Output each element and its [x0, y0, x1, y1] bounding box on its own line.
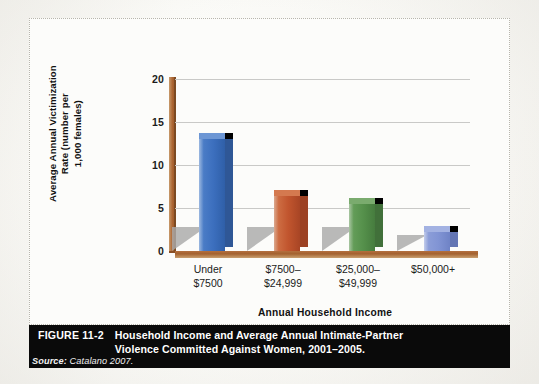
- bar-shadow-4: [397, 235, 427, 251]
- figure-source: Source: Catalano 2007.: [32, 356, 133, 366]
- y-axis-title: Average Annual Victimization Rate (numbe…: [47, 45, 84, 223]
- source-label: Source:: [32, 356, 67, 366]
- x-axis-floor: [175, 251, 478, 258]
- source-value: Catalano 2007.: [70, 356, 134, 366]
- figure-number: FIGURE 11-2: [38, 329, 104, 341]
- gridline-15: [175, 122, 470, 123]
- chart-panel: Average Annual Victimization Rate (numbe…: [29, 18, 510, 325]
- caption-line-1: Household Income and Average Annual Inti…: [115, 329, 403, 341]
- x-label-2-line2: $24,999: [264, 277, 302, 289]
- y-tick-0: 0: [132, 245, 164, 257]
- x-label-50000-plus: $50,000+: [387, 262, 479, 276]
- y-axis-title-line2: Rate (number per: [60, 93, 71, 174]
- bar-face-3: [349, 203, 375, 251]
- bar-side-3: [375, 199, 383, 247]
- gridline-20: [175, 79, 470, 80]
- y-tick-10: 10: [132, 159, 164, 171]
- bar-face-2: [274, 195, 300, 251]
- figure-page: Average Annual Victimization Rate (numbe…: [0, 0, 539, 384]
- bar-top-3: [349, 198, 375, 204]
- bar-side-2: [300, 191, 308, 247]
- bar-top-1: [199, 133, 225, 139]
- x-label-3-line2: $49,999: [339, 277, 377, 289]
- x-label-3-line1: $25,000–: [336, 263, 380, 275]
- figure-container: Average Annual Victimization Rate (numbe…: [29, 18, 510, 368]
- figure-caption-bar: FIGURE 11-2 Household Income and Average…: [29, 325, 510, 368]
- plot-area: [175, 79, 470, 251]
- y-axis-title-line1: Average Annual Victimization: [47, 65, 58, 202]
- x-axis-title: Annual Household Income: [175, 307, 475, 318]
- bar-7500-24999[interactable]: [274, 195, 300, 251]
- y-axis-title-line3: 1,000 females): [72, 100, 83, 167]
- figure-caption-text: Household Income and Average Annual Inti…: [115, 329, 403, 356]
- bar-top-2: [274, 190, 300, 196]
- bar-face-4: [424, 231, 450, 251]
- caption-row: FIGURE 11-2 Household Income and Average…: [38, 329, 504, 356]
- bar-side-1: [225, 134, 233, 248]
- y-tick-15: 15: [132, 116, 164, 128]
- x-label-1-line1: Under: [194, 263, 223, 275]
- y-tick-5: 5: [132, 202, 164, 214]
- bar-top-4: [424, 226, 450, 232]
- x-label-4-line1: $50,000+: [411, 263, 455, 275]
- x-label-1-line2: $7500: [193, 277, 222, 289]
- y-tick-20: 20: [132, 73, 164, 85]
- caption-line-2: Violence Committed Against Women, 2001–2…: [115, 343, 365, 355]
- x-label-2-line1: $7500–: [265, 263, 300, 275]
- bar-50000-plus[interactable]: [424, 231, 450, 251]
- bar-under-7500[interactable]: [199, 138, 225, 252]
- bar-25000-49999[interactable]: [349, 203, 375, 251]
- y-axis-ticks: 20 15 10 5 0: [128, 19, 164, 326]
- bar-face-1: [199, 138, 225, 252]
